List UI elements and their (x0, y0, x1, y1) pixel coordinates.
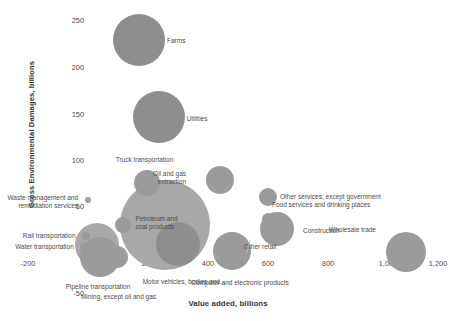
bubble-point[interactable] (106, 246, 128, 268)
bubble-point[interactable] (260, 212, 294, 246)
bubble-label: Rail transportation (23, 232, 76, 240)
bubble-label: Pipeline transportation (66, 283, 131, 291)
bubble-label: Waste management and remediation service… (7, 194, 78, 210)
x-tick-neg200: -200 (21, 259, 36, 268)
x-tick-800: 800 (322, 259, 334, 268)
bubble-point[interactable] (115, 217, 131, 233)
bubble-label: Farms (167, 37, 185, 45)
y-tick-150: 150 (40, 110, 84, 119)
bubble-label: Utilities (187, 115, 208, 123)
bubble-label: Wholesale trade (329, 226, 376, 234)
bubble-label: Oil and gas extraction (153, 170, 186, 186)
x-tick-400: 400 (202, 259, 214, 268)
y-tick-200: 200 (40, 63, 84, 72)
bubble-label: Petroleum and coal products (135, 215, 177, 231)
bubble-label: Water transportation (15, 243, 74, 251)
bubble-label: Food services and drinking places (272, 201, 370, 209)
bubble-point[interactable] (206, 166, 234, 194)
x-tick-600: 600 (262, 259, 274, 268)
bubble-point[interactable] (133, 91, 185, 143)
bubble-label: Other services, except government (280, 193, 381, 201)
y-tick-250: 250 (40, 16, 84, 25)
x-tick-1200: 1,200 (429, 259, 448, 268)
x-axis-title: Value added, billions (0, 299, 456, 308)
bubble-label: Truck transportation (116, 156, 174, 164)
bubble-label: Computer and electronic products (191, 279, 289, 287)
bubble-label: Mining, except oil and gas (81, 293, 156, 301)
bubble-point[interactable] (113, 14, 165, 66)
y-tick-100: 100 (40, 156, 84, 165)
bubble-point[interactable] (386, 232, 426, 272)
bubble-point[interactable] (85, 197, 91, 203)
bubble-chart: Gross Environmental Damages, billions Va… (0, 0, 456, 321)
